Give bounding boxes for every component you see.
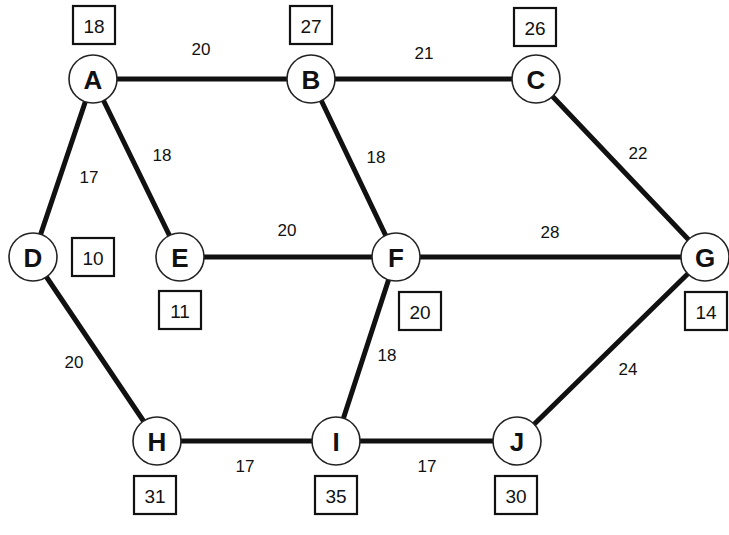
edge-c-g: 22: [536, 79, 705, 257]
weighted-graph-diagram: 20211718182220282018241717 ABCDEFGHIJ 18…: [0, 0, 729, 535]
edge-weight-label: 18: [378, 346, 397, 365]
edge-line: [33, 257, 157, 441]
value-box-label: 31: [144, 486, 165, 507]
edge-b-c: 21: [311, 44, 536, 80]
value-box-a: 18: [73, 6, 115, 44]
edge-weight-label: 20: [278, 221, 297, 240]
value-box-j: 30: [495, 476, 537, 514]
edge-h-i: 17: [157, 441, 336, 476]
value-box-label: 30: [505, 486, 526, 507]
value-box-f: 20: [399, 292, 441, 330]
node-j: J: [493, 417, 541, 465]
value-box-label: 20: [409, 302, 430, 323]
edge-weight-label: 17: [80, 168, 99, 187]
node-h: H: [133, 417, 181, 465]
node-i: I: [312, 417, 360, 465]
edge-a-b: 20: [93, 40, 311, 80]
edge-line: [311, 79, 396, 257]
edges-layer: 20211718182220282018241717: [33, 40, 705, 476]
value-box-label: 10: [82, 248, 103, 269]
value-box-e: 11: [159, 291, 201, 329]
value-box-i: 35: [315, 476, 357, 514]
value-box-h: 31: [134, 476, 176, 514]
node-label: C: [527, 65, 546, 95]
node-label: I: [332, 427, 339, 457]
value-box-b: 27: [290, 6, 332, 44]
value-box-label: 26: [524, 18, 545, 39]
edge-weight-label: 28: [541, 223, 560, 242]
edge-weight-label: 18: [153, 146, 172, 165]
edge-i-j: 17: [336, 441, 517, 476]
node-label: H: [148, 427, 167, 457]
edge-weight-label: 17: [418, 457, 437, 476]
node-c: C: [512, 55, 560, 103]
edge-d-h: 20: [33, 257, 157, 441]
edge-weight-label: 24: [619, 360, 638, 379]
value-box-c: 26: [514, 8, 556, 46]
value-box-label: 11: [170, 301, 190, 322]
edge-weight-label: 18: [367, 148, 386, 167]
nodes-layer: ABCDEFGHIJ: [9, 55, 729, 465]
edge-weight-label: 17: [236, 457, 255, 476]
edge-f-i: 18: [336, 257, 396, 441]
node-label: F: [388, 243, 404, 273]
node-g: G: [681, 233, 729, 281]
edge-weight-label: 21: [415, 44, 434, 63]
value-box-label: 35: [325, 486, 346, 507]
edge-weight-label: 20: [65, 353, 84, 372]
edge-line: [536, 79, 705, 257]
edge-line: [517, 257, 705, 441]
node-d: D: [9, 233, 57, 281]
value-box-label: 14: [695, 302, 717, 323]
node-label: A: [84, 65, 103, 95]
node-f: F: [372, 233, 420, 281]
node-label: B: [302, 65, 321, 95]
edge-b-f: 18: [311, 79, 396, 257]
value-box-d: 10: [72, 238, 114, 276]
value-box-label: 18: [83, 16, 104, 37]
edge-weight-label: 20: [192, 40, 211, 59]
node-label: G: [695, 243, 715, 273]
node-b: B: [287, 55, 335, 103]
edge-weight-label: 22: [629, 144, 648, 163]
node-label: D: [24, 243, 43, 273]
node-e: E: [156, 233, 204, 281]
edge-a-d: 17: [33, 79, 98, 257]
node-a: A: [69, 55, 117, 103]
node-label: E: [171, 243, 188, 273]
value-box-g: 14: [685, 292, 727, 330]
edge-e-f: 20: [180, 221, 396, 258]
edge-line: [93, 79, 180, 257]
edge-f-g: 28: [396, 223, 705, 258]
edge-a-e: 18: [93, 79, 180, 257]
node-label: J: [510, 427, 524, 457]
value-box-label: 27: [300, 16, 321, 37]
edge-g-j: 24: [517, 257, 705, 441]
